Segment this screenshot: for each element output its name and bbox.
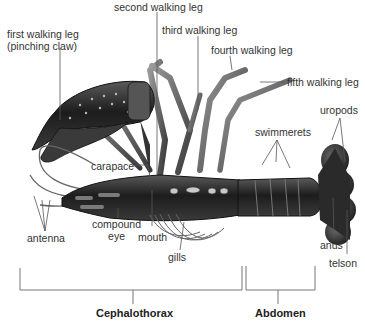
label-mouth: mouth — [138, 231, 167, 243]
region-label-cephalothorax: Cephalothorax — [96, 307, 173, 319]
label-fifth-walking-leg: fifth walking leg — [287, 76, 359, 88]
label-antenna: antenna — [27, 232, 65, 244]
label-line-1: compound — [92, 218, 141, 230]
label-third-walking-leg: third walking leg — [162, 24, 237, 36]
label-line-2: eye — [92, 230, 141, 242]
region-label-abdomen: Abdomen — [255, 307, 306, 319]
label-anus: anus — [320, 239, 343, 251]
region-brackets — [20, 266, 315, 304]
label-second-walking-leg: second walking leg — [114, 1, 203, 13]
crayfish-anatomy-diagram: first walking leg (pinching claw) second… — [0, 0, 365, 325]
label-line-2: (pinching claw) — [7, 40, 79, 52]
label-compound-eye: compound eye — [92, 218, 141, 242]
label-carapace: carapace — [91, 160, 134, 172]
label-uropods: uropods — [320, 104, 358, 116]
label-telson: telson — [329, 257, 357, 269]
label-line-1: first walking leg — [7, 28, 79, 40]
label-fourth-walking-leg: fourth walking leg — [211, 44, 293, 56]
label-swimmerets: swimmerets — [255, 126, 311, 138]
tail-fan — [318, 144, 356, 245]
label-gills: gills — [168, 251, 186, 263]
label-first-walking-leg: first walking leg (pinching claw) — [7, 28, 79, 52]
abdomen-body — [238, 178, 322, 216]
